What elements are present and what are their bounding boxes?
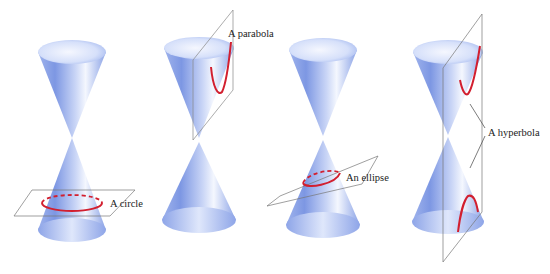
label-hyperbola: A hyperbola [488, 127, 540, 138]
panel-ellipse: An ellipse [267, 38, 389, 238]
double-cone-2 [162, 37, 236, 233]
label-parabola: A parabola [228, 28, 274, 39]
double-cone-4 [412, 40, 484, 234]
panel-parabola: A parabola [162, 10, 274, 233]
conic-sections-figure: A circle A parabola An ellipse [0, 0, 550, 274]
label-circle: A circle [110, 198, 143, 209]
hyperbola-leader-lines [470, 104, 485, 168]
double-cone-3 [286, 38, 360, 238]
label-ellipse: An ellipse [346, 172, 389, 183]
panel-hyperbola: A hyperbola [412, 14, 540, 262]
panel-circle: A circle [14, 40, 143, 242]
